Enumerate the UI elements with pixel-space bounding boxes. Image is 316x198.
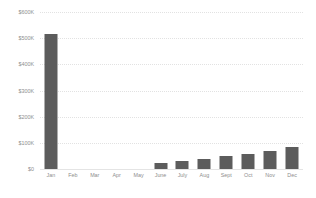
x-axis: JanFebMarAprMayJuneJulyAugSeptOctNovDec — [40, 172, 303, 186]
x-axis-tick-label: Mar — [90, 172, 99, 178]
y-axis-tick-label: $100K — [4, 140, 34, 146]
bar[interactable] — [220, 156, 233, 169]
y-axis-tick-label: $500K — [4, 35, 34, 41]
bar[interactable] — [176, 161, 189, 169]
bar-slot — [172, 12, 194, 169]
x-axis-tick-label: May — [134, 172, 144, 178]
gridline — [40, 169, 303, 170]
bar[interactable] — [154, 163, 167, 169]
bar[interactable] — [198, 159, 211, 169]
bar-slot — [128, 12, 150, 169]
x-axis-tick-label: Sept — [221, 172, 232, 178]
x-axis-tick-label: June — [155, 172, 167, 178]
bar-slot — [84, 12, 106, 169]
bar-slot — [215, 12, 237, 169]
bar[interactable] — [264, 151, 277, 169]
y-axis-tick-label: $300K — [4, 88, 34, 94]
bar-slot — [237, 12, 259, 169]
bar-slot — [281, 12, 303, 169]
x-axis-tick-label: Jan — [47, 172, 56, 178]
x-axis-tick-label: July — [178, 172, 188, 178]
bar-chart: $0$100K$200K$300K$400K$500K$600K JanFebM… — [0, 0, 316, 198]
x-axis-tick-label: Aug — [200, 172, 210, 178]
x-axis-tick-label: Oct — [244, 172, 252, 178]
x-axis-tick-label: Apr — [113, 172, 121, 178]
bar-slot — [40, 12, 62, 169]
x-axis-tick-label: Dec — [287, 172, 297, 178]
y-axis-tick-label: $0 — [4, 166, 34, 172]
bar[interactable] — [242, 154, 255, 169]
x-axis-tick-label: Feb — [68, 172, 77, 178]
bar-slot — [106, 12, 128, 169]
y-axis-tick-label: $600K — [4, 9, 34, 15]
bar-slot — [62, 12, 84, 169]
bars-layer — [40, 12, 303, 169]
y-axis-tick-label: $200K — [4, 114, 34, 120]
bar[interactable] — [44, 34, 57, 169]
bar[interactable] — [286, 147, 299, 169]
plot-area — [40, 12, 303, 169]
y-axis-tick-label: $400K — [4, 61, 34, 67]
bar-slot — [259, 12, 281, 169]
bar-slot — [193, 12, 215, 169]
bar-slot — [150, 12, 172, 169]
x-axis-tick-label: Nov — [265, 172, 275, 178]
